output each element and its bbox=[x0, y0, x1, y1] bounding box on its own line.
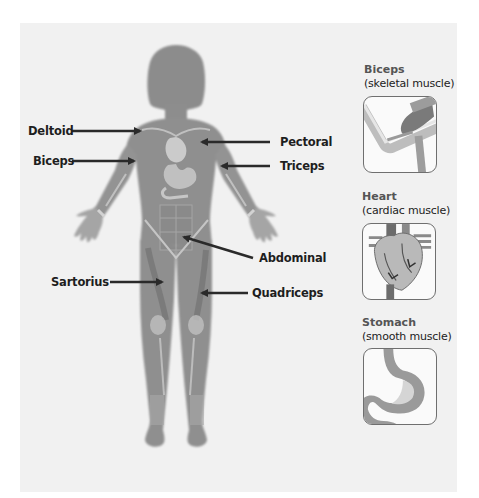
left-hand bbox=[74, 208, 103, 242]
arm-bicep-icon bbox=[364, 97, 436, 172]
inset-stomach-box bbox=[363, 348, 437, 425]
inset-heart-title: Heart (cardiac muscle) bbox=[362, 190, 450, 218]
label-sartorius: Sartorius bbox=[51, 275, 109, 289]
label-biceps: Biceps bbox=[33, 154, 74, 168]
inset-biceps-box bbox=[363, 96, 437, 173]
label-quadriceps: Quadriceps bbox=[252, 286, 323, 300]
inset-biceps-title: Biceps (skeletal muscle) bbox=[364, 63, 454, 91]
head-icon bbox=[147, 45, 205, 112]
label-abdominal: Abdominal bbox=[259, 251, 326, 265]
heart-icon bbox=[363, 224, 435, 299]
inset-stomach-name: Stomach bbox=[362, 316, 452, 330]
label-pectoral: Pectoral bbox=[280, 135, 332, 149]
label-deltoid: Deltoid bbox=[28, 124, 73, 138]
right-hand bbox=[249, 208, 278, 242]
inset-biceps-type: (skeletal muscle) bbox=[364, 77, 454, 91]
inset-heart-type: (cardiac muscle) bbox=[362, 204, 450, 218]
inset-heart-box bbox=[362, 223, 436, 300]
inset-stomach-title: Stomach (smooth muscle) bbox=[362, 316, 452, 344]
stomach-icon bbox=[364, 349, 436, 424]
label-triceps: Triceps bbox=[280, 159, 325, 173]
inset-biceps-name: Biceps bbox=[364, 63, 454, 77]
inset-stomach-type: (smooth muscle) bbox=[362, 330, 452, 344]
inset-heart-name: Heart bbox=[362, 190, 450, 204]
